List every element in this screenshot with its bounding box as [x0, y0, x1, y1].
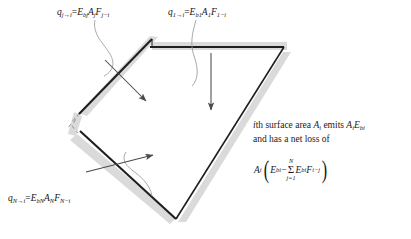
netloss-close-paren: )	[322, 159, 327, 180]
eq-N-sub-N-minus-i: N−i	[60, 197, 70, 204]
shadow-surface-N	[70, 134, 176, 224]
eq-N-sub-bN: bN	[36, 197, 44, 204]
shadow-left-corner	[68, 112, 82, 136]
edge-surface-N	[80, 131, 176, 219]
netloss-F-sub: i−j	[312, 166, 320, 173]
desc-E-sub: bi	[360, 124, 365, 131]
desc-th-surface-area: th surface area	[256, 120, 314, 130]
eq-1-sub-1-to-i: 1→i	[173, 11, 184, 18]
description-line-1: ith surface area Ai emits AiEbi	[253, 118, 408, 132]
equation-surface-N: qN→i=EbNANFN−i	[8, 192, 70, 206]
net-loss-expression: Ai ( Ebi− N Σ j=1 EbiFi−j )	[254, 158, 329, 181]
desc-emits: emits	[321, 120, 346, 130]
equation-surface-j: qj→i=EbjAjFj−i	[57, 6, 109, 20]
netloss-A-sub: i	[260, 166, 262, 173]
surface-i-description: ith surface area Ai emits AiEbi and has …	[253, 118, 408, 147]
description-line-2: and has a net loss of	[253, 132, 408, 146]
eq-N-sub-N-to-i: N→i	[13, 197, 26, 204]
netloss-open-paren: (	[263, 159, 268, 180]
equation-surface-1: q1→i=Eb1A1F1−i	[168, 6, 226, 20]
edge-surface-j	[79, 39, 152, 114]
sum-lower-limit: j=1	[286, 175, 295, 181]
leader-eq-j	[95, 20, 113, 76]
leader-eq-1	[192, 20, 197, 86]
eq-j-sub-j-to-i: j→i	[62, 11, 72, 18]
shadow-surface-j	[79, 36, 158, 116]
radiation-enclosure-figure: qj→i=EbjAjFj−i q1→i=Eb1A1F1−i qN→i=EbNAN…	[0, 0, 411, 239]
eq-1-sub-1-minus-i: 1−i	[217, 11, 226, 18]
eq-j-sub-j-minus-i: j−i	[101, 11, 109, 18]
